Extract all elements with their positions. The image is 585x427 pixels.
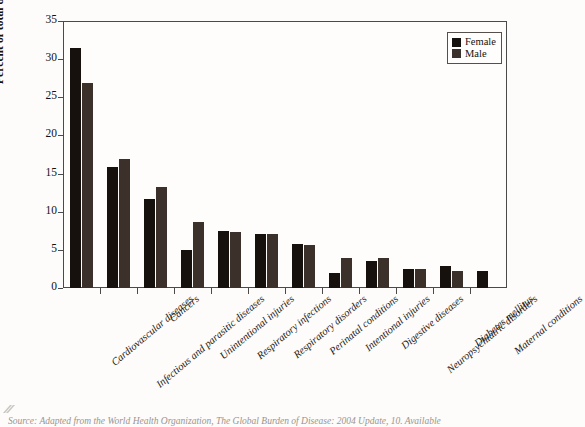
legend-label-male: Male — [465, 49, 487, 60]
bar-male[interactable] — [230, 232, 241, 288]
y-axis-tick-label: 25 — [31, 89, 57, 101]
legend-label-female: Female — [465, 37, 496, 48]
bar-female[interactable] — [292, 244, 303, 288]
y-axis-tick-label: 20 — [31, 127, 57, 139]
bar-group — [70, 21, 93, 288]
x-axis-tick-mark — [137, 288, 138, 294]
legend-swatch-female-icon — [452, 38, 461, 47]
x-axis-tick-mark — [433, 288, 434, 294]
bar-female[interactable] — [403, 269, 414, 288]
x-axis-label: Respiratory infections — [255, 293, 333, 361]
bar-group — [403, 21, 426, 288]
bar-male[interactable] — [378, 258, 389, 288]
scan-artifact-icon — [2, 404, 18, 414]
x-axis-tick-mark — [322, 288, 323, 294]
x-axis-label: Digestive diseases — [399, 293, 465, 351]
x-axis-tick-mark — [211, 288, 212, 294]
bar-male[interactable] — [267, 234, 278, 288]
x-axis-tick-mark — [470, 288, 471, 294]
y-axis-tick-label: 0 — [31, 280, 57, 292]
y-axis-tick-label: 10 — [31, 204, 57, 216]
bar-female[interactable] — [107, 167, 118, 288]
bar-female[interactable] — [70, 48, 81, 288]
y-axis-tick-label: 15 — [31, 166, 57, 178]
bar-male[interactable] — [415, 269, 426, 288]
x-axis-label: Intentional injuries — [363, 293, 432, 353]
bar-female[interactable] — [440, 266, 451, 288]
y-axis-tick-label: 35 — [31, 13, 57, 25]
y-axis-title: Percent of total deaths — [0, 0, 5, 118]
bar-female[interactable] — [366, 261, 377, 288]
bar-group — [218, 21, 241, 288]
bar-female[interactable] — [255, 234, 266, 288]
x-axis-label: Cardiovascular diseases — [109, 293, 195, 368]
x-axis-label: Cancers — [167, 293, 201, 324]
legend-swatch-male-icon — [452, 49, 461, 58]
bar-group — [292, 21, 315, 288]
bar-group — [329, 21, 352, 288]
bar-female[interactable] — [181, 250, 192, 288]
y-axis-tick-label: 5 — [31, 242, 57, 254]
bar-female[interactable] — [329, 273, 340, 288]
bar-group — [181, 21, 204, 288]
y-axis-tick-mark — [58, 288, 63, 289]
bar-group — [366, 21, 389, 288]
source-caption: Source: Adapted from the World Health Or… — [8, 416, 523, 427]
x-axis-label: Neuropsychiatric disorders — [445, 293, 540, 375]
x-axis-tick-mark — [248, 288, 249, 294]
x-axis-tick-mark — [174, 288, 175, 294]
x-axis-tick-mark — [396, 288, 397, 294]
bar-male[interactable] — [82, 83, 93, 288]
x-axis-tick-mark — [100, 288, 101, 294]
x-axis-tick-mark — [359, 288, 360, 294]
bar-male[interactable] — [341, 258, 352, 288]
bar-group — [144, 21, 167, 288]
bar-female[interactable] — [477, 271, 488, 288]
x-axis-label: Unintentional injuries — [218, 293, 296, 361]
bar-male[interactable] — [119, 159, 130, 288]
bar-series-container — [63, 21, 507, 288]
x-axis-tick-mark — [285, 288, 286, 294]
legend-item-female[interactable]: Female — [452, 37, 496, 48]
bar-female[interactable] — [218, 231, 229, 288]
bar-male[interactable] — [452, 271, 463, 288]
bar-group — [255, 21, 278, 288]
legend-item-male[interactable]: Male — [452, 49, 496, 60]
y-axis-tick-label: 30 — [31, 51, 57, 63]
x-axis-label: Maternal conditions — [512, 293, 585, 356]
x-axis-label: Diabetes mellitus — [472, 293, 535, 348]
legend: Female Male — [447, 32, 502, 64]
bar-male[interactable] — [304, 245, 315, 288]
bar-male[interactable] — [156, 187, 167, 288]
x-axis-label: Perinatal conditions — [327, 293, 400, 357]
bar-female[interactable] — [144, 199, 155, 288]
bar-male[interactable] — [193, 222, 204, 288]
x-axis-label: Infectious and parasitic diseases — [154, 293, 266, 390]
bar-group — [107, 21, 130, 288]
x-axis-label: Respiratory disorders — [291, 293, 368, 360]
